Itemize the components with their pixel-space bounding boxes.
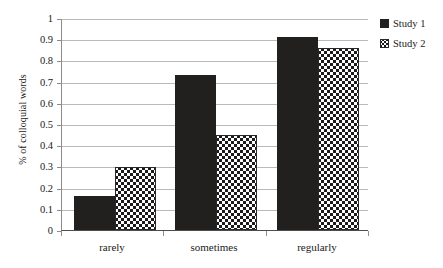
y-axis-tick-label: 0 [7, 226, 53, 237]
bar-rarely-study-2 [115, 167, 156, 230]
x-axis-tick-mark [61, 231, 62, 236]
y-axis-tick-label: 0.4 [7, 141, 53, 152]
x-axis-tick-mark [266, 231, 267, 236]
y-axis-tick-label: 0.2 [7, 184, 53, 195]
x-axis-label-rarely: rarely [57, 241, 167, 253]
bar-rarely-study-1 [74, 196, 115, 230]
legend-item-study-1: Study 1 [380, 13, 442, 33]
y-axis-tick-label: 0.9 [7, 35, 53, 46]
bar-sometimes-study-1 [175, 75, 216, 230]
x-axis-label-regularly: regularly [262, 241, 372, 253]
legend-swatch-checker-icon [380, 39, 389, 48]
legend-item-study-2: Study 2 [380, 33, 442, 53]
bar-regularly-study-2 [318, 48, 359, 230]
y-axis-tick-label: 0.8 [7, 56, 53, 67]
legend-swatch-solid-icon [380, 19, 389, 28]
bar-regularly-study-1 [277, 37, 318, 230]
y-axis-tick-label: 0.1 [7, 205, 53, 216]
bar-sometimes-study-2 [216, 135, 257, 230]
y-axis-tick-label: 0.6 [7, 99, 53, 110]
y-axis-tick-label: 0.7 [7, 78, 53, 89]
bar-chart-figure: % of colloquial words 00.10.20.30.40.50.… [0, 0, 443, 268]
chart-legend: Study 1 Study 2 [380, 13, 442, 53]
y-axis-tick-label: 0.5 [7, 120, 53, 131]
x-axis-tick-mark [368, 231, 369, 236]
x-axis-tick-mark [163, 231, 164, 236]
y-axis-tick-label: 1 [7, 14, 53, 25]
plot-area [61, 19, 368, 231]
y-axis-tick-label: 0.3 [7, 162, 53, 173]
bar-group-container [62, 19, 368, 230]
legend-label: Study 2 [393, 38, 425, 49]
x-axis-label-sometimes: sometimes [159, 241, 269, 253]
legend-label: Study 1 [393, 18, 425, 29]
